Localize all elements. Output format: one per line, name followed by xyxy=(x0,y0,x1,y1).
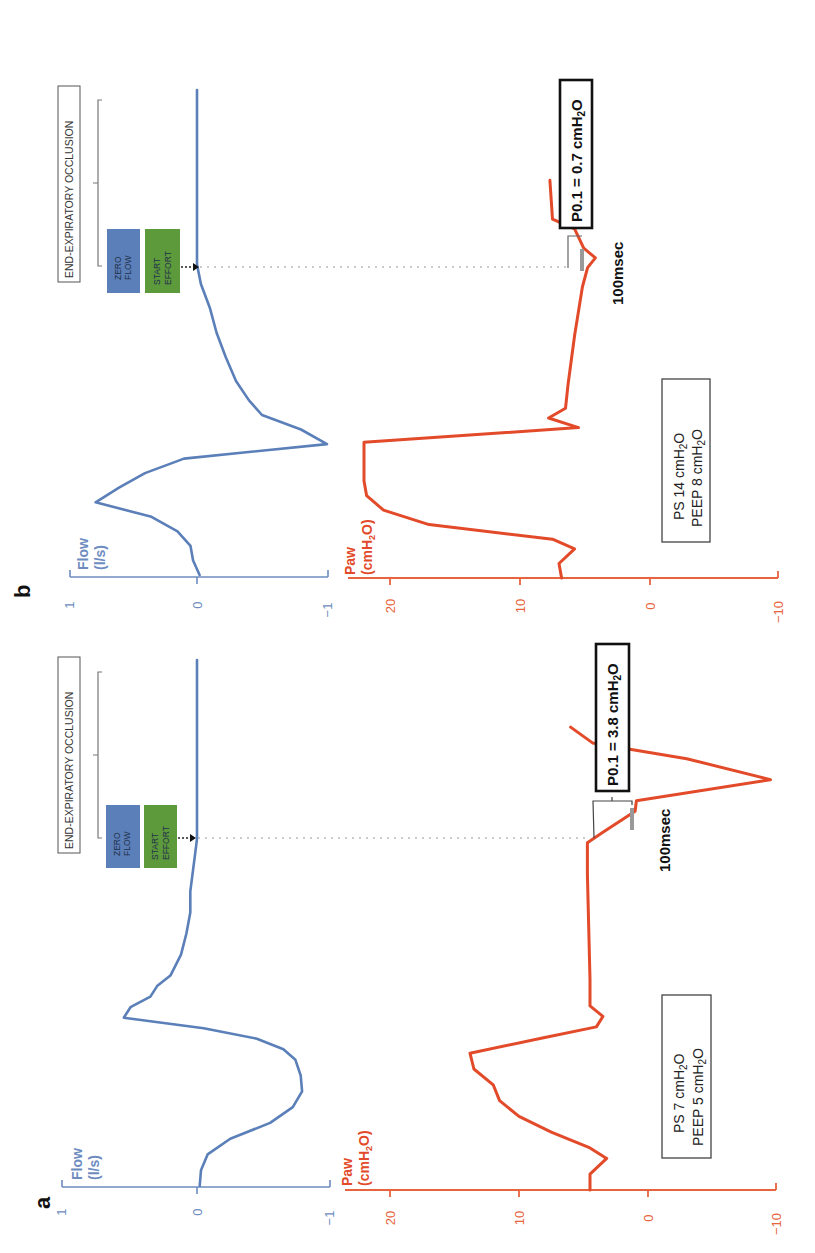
start-effort-label2-b: EFFORT xyxy=(163,251,173,285)
panel-a: a 1 0 −1 Flow (l/s) 20 10 0 −10 Paw (cmH… xyxy=(30,644,784,1235)
panel-b: b 1 0 −1 Flow (l/s) 20 10 0 −10 Paw (cmH… xyxy=(10,80,786,623)
delta-marker-b xyxy=(580,249,584,271)
flow-tick-1-a: 1 xyxy=(54,1208,69,1215)
flow-curve-a xyxy=(124,660,302,1186)
zero-flow-label2-a: FLOW xyxy=(122,831,132,856)
paw-axis-a: 20 10 0 −10 Paw (cmH2O) xyxy=(339,1130,784,1235)
paw-axis-label-b: Paw xyxy=(342,547,358,575)
paw-axis-b: 20 10 0 −10 Paw (cmH2O) xyxy=(342,519,786,623)
paw-axis-unit-a: (cmH2O) xyxy=(356,1130,374,1186)
flow-tick-neg1-a: −1 xyxy=(322,1211,337,1226)
zero-flow-label-b: ZERO xyxy=(113,256,123,280)
flow-tick-0-b: 0 xyxy=(190,601,205,608)
paw-tick-20-a: 20 xyxy=(383,1211,398,1225)
paw-tick-20-b: 20 xyxy=(383,599,398,613)
flow-axis-unit-a: (l/s) xyxy=(86,1155,102,1180)
flow-curve-b xyxy=(96,90,327,575)
paw-curve-b xyxy=(364,180,595,578)
flow-axis-a: 1 0 −1 Flow (l/s) xyxy=(54,1148,337,1225)
paw-tick-10-b: 10 xyxy=(513,599,528,613)
flow-axis-b: 1 0 −1 Flow (l/s) xyxy=(62,538,335,617)
flow-tick-0-a: 0 xyxy=(190,1208,205,1215)
paw-axis-unit-b: (cmH2O) xyxy=(359,519,377,575)
start-effort-label-a: START xyxy=(150,833,160,860)
arrowhead-icon-a xyxy=(190,834,196,842)
start-effort-label2-a: EFFORT xyxy=(161,826,171,860)
paw-curve-a xyxy=(470,727,771,1190)
occlusion-label-a: END-EXPIRATORY OCCLUSION xyxy=(63,692,75,849)
settings-ps-a: PS 7 cmH2O xyxy=(671,1053,689,1133)
paw-tick-10-a: 10 xyxy=(512,1211,527,1225)
occlusion-bracket-b xyxy=(93,100,102,266)
paw-tick-0-b: 0 xyxy=(643,602,658,609)
p01-label-b: P0.1 = 0.7 cmH2O xyxy=(568,99,587,222)
panel-letter-b: b xyxy=(10,585,35,598)
flow-axis-label-a: Flow xyxy=(69,1148,85,1180)
delta-marker-a xyxy=(630,808,634,830)
zero-flow-label2-b: FLOW xyxy=(123,255,133,280)
paw-axis-label-a: Paw xyxy=(339,1158,355,1186)
panel-letter-a: a xyxy=(30,1196,55,1209)
flow-axis-label-b: Flow xyxy=(75,538,91,570)
interval-label-a: 100msec xyxy=(656,809,673,872)
paw-tick-0-a: 0 xyxy=(641,1214,656,1221)
p01-label-a: P0.1 = 3.8 cmH2O xyxy=(604,663,623,786)
occlusion-bracket-a xyxy=(93,672,102,838)
interval-label-b: 100msec xyxy=(609,242,626,305)
flow-tick-neg1-b: −1 xyxy=(320,603,335,618)
flow-axis-unit-b: (l/s) xyxy=(92,545,108,570)
paw-tick-neg10-b: −10 xyxy=(771,601,786,623)
zero-flow-label-a: ZERO xyxy=(112,832,122,856)
figure-canvas: b 1 0 −1 Flow (l/s) 20 10 0 −10 Paw (cmH… xyxy=(0,0,815,1253)
paw-tick-neg10-a: −10 xyxy=(769,1213,784,1235)
start-effort-label-b: START xyxy=(152,258,162,285)
flow-tick-1-b: 1 xyxy=(62,601,77,608)
occlusion-label-b: END-EXPIRATORY OCCLUSION xyxy=(63,121,75,278)
